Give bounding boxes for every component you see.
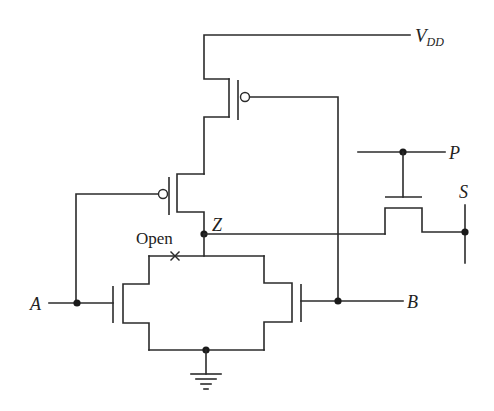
b-label: B [407, 292, 418, 312]
nmos-transistor-a [49, 256, 149, 350]
s-label: S [459, 182, 468, 202]
vdd-label: VDD [415, 25, 444, 49]
ground-connection [149, 346, 264, 374]
node-a [73, 299, 80, 306]
nmos-transistor-b [264, 256, 403, 350]
open-label: Open [136, 229, 173, 248]
circuit-diagram: VDD Z Open A B P S [0, 0, 494, 411]
inversion-bubble-icon [241, 93, 250, 102]
circuit-svg: VDD Z Open A B P S [0, 0, 494, 411]
vdd-rail [204, 35, 410, 79]
ground-icon [191, 374, 221, 389]
z-label: Z [212, 215, 223, 235]
p-label: P [448, 143, 460, 163]
pmos-transistor-b [204, 79, 338, 301]
inversion-bubble-icon [159, 190, 168, 199]
z-node [200, 230, 385, 256]
a-label: A [29, 294, 42, 314]
node-s [461, 228, 468, 235]
s-output [461, 205, 468, 263]
node-b [334, 297, 341, 304]
